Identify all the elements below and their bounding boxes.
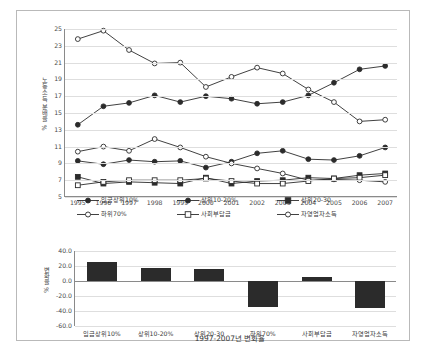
y-axis-tick: 0.0: [62, 278, 72, 284]
data-point: [306, 87, 311, 92]
data-point: [280, 171, 285, 176]
legend-label: 임금상위10%: [101, 197, 139, 203]
data-point: [383, 64, 388, 69]
legend-row-1: 임금상위10% 상위10-20% 상위20-30: [77, 196, 377, 205]
grid-line: [65, 96, 397, 97]
y-axis-tick: 13: [54, 127, 62, 133]
data-point: [203, 85, 208, 90]
legend-label: 자영업자소득: [301, 211, 337, 217]
data-point: [75, 183, 80, 188]
filled-square-icon: [277, 196, 299, 205]
open-circle-icon: [77, 210, 99, 219]
y-axis-tick: 23: [54, 43, 62, 49]
data-point: [203, 165, 208, 170]
data-point: [306, 157, 311, 162]
y-axis-tick: 40.0: [58, 248, 72, 254]
legend-item-social-contribution[interactable]: 사회부담금: [177, 210, 277, 219]
grid-line: [75, 251, 396, 252]
y-axis-tick: 20.0: [58, 263, 72, 269]
legend-label: 상위20-30: [301, 197, 331, 203]
chart-outer-frame: 노동소득 분배율 % 57911131517192123251995199619…: [16, 10, 410, 341]
y-axis-tick: -60.0: [56, 323, 72, 329]
y-axis-tick: 19: [54, 76, 62, 82]
data-point: [280, 71, 285, 76]
data-point: [332, 100, 337, 105]
data-point: [152, 137, 157, 142]
bar: [194, 269, 224, 281]
data-point: [75, 149, 80, 154]
y-axis-tick: 21: [54, 59, 62, 65]
y-axis-tick: 9: [58, 160, 62, 166]
grid-line: [65, 79, 397, 80]
data-point: [357, 119, 362, 124]
grid-line: [65, 29, 397, 30]
filled-circle-icon: [77, 196, 99, 205]
data-point: [178, 100, 183, 105]
data-point: [255, 151, 260, 156]
grid-line: [65, 46, 397, 47]
data-point: [383, 173, 388, 178]
data-point: [75, 174, 80, 179]
data-point: [101, 104, 106, 109]
y-axis-tick: 15: [54, 110, 62, 116]
x-axis-tick: 2007: [377, 200, 393, 206]
data-point: [332, 158, 337, 163]
data-point: [280, 181, 285, 186]
chart-legend: 임금상위10% 상위10-20% 상위20-30: [77, 196, 377, 224]
y-axis-tick: 17: [54, 93, 62, 99]
legend-label: 상위10-20%: [201, 197, 237, 203]
zero-axis-line: [75, 281, 396, 282]
legend-item-top20-30[interactable]: 상위20-30: [277, 196, 377, 205]
data-point: [75, 122, 80, 127]
bar: [87, 262, 117, 282]
bottom-chart-plot-area: -60.0-40.0-20.00.020.040.0임금상위10%상위10-20…: [74, 251, 396, 326]
grid-line: [65, 63, 397, 64]
bar: [141, 268, 171, 282]
bottom-bar-chart-panel: 변화율 % -60.0-40.0-20.00.020.040.0임금상위10%상…: [41, 247, 419, 347]
legend-item-self-employed-income[interactable]: 자영업자소득: [277, 210, 377, 219]
grid-line: [65, 180, 397, 181]
legend-label: 하위70%: [101, 211, 127, 217]
open-square-icon: [177, 210, 199, 219]
grid-line: [75, 296, 396, 297]
grid-line: [65, 130, 397, 131]
legend-row-2: 하위70% 사회부담금 자영업자소득: [77, 210, 377, 219]
series-5: [75, 28, 387, 124]
data-point: [127, 158, 132, 163]
data-point: [280, 100, 285, 105]
bar: [355, 281, 385, 308]
legend-item-bottom70[interactable]: 하위70%: [77, 210, 177, 219]
data-point: [127, 48, 132, 53]
bar: [248, 281, 278, 307]
filled-circle-icon: [177, 196, 199, 205]
data-point: [280, 148, 285, 153]
open-circle-icon: [277, 210, 299, 219]
grid-line: [75, 266, 396, 267]
data-point: [255, 181, 260, 186]
bar: [302, 277, 332, 282]
legend-label: 사회부담금: [201, 211, 231, 217]
data-point: [203, 154, 208, 159]
data-point: [75, 37, 80, 42]
data-point: [357, 67, 362, 72]
data-point: [255, 166, 260, 171]
bottom-chart-y-axis-label: 변화율 %: [39, 267, 49, 293]
y-axis-tick: -20.0: [56, 293, 72, 299]
y-axis-tick: 7: [58, 177, 62, 183]
legend-item-top10-20[interactable]: 상위10-20%: [177, 196, 277, 205]
chart-page: 노동소득 분배율 % 57911131517192123251995199619…: [0, 0, 426, 351]
legend-item-wage-top10[interactable]: 임금상위10%: [77, 196, 177, 205]
grid-line: [75, 311, 396, 312]
grid-line: [65, 163, 397, 164]
y-axis-tick: -40.0: [56, 308, 72, 314]
data-point: [357, 153, 362, 158]
data-point: [127, 148, 132, 153]
data-point: [255, 101, 260, 106]
data-point: [255, 65, 260, 70]
top-chart-plot-area: 5791113151719212325199519961997199819992…: [64, 29, 397, 197]
data-point: [383, 117, 388, 122]
top-chart-y-axis-label: 노동소득 분배율 %: [37, 77, 47, 131]
series-1: [75, 145, 387, 170]
data-point: [332, 80, 337, 85]
y-axis-tick: 5: [58, 194, 62, 200]
